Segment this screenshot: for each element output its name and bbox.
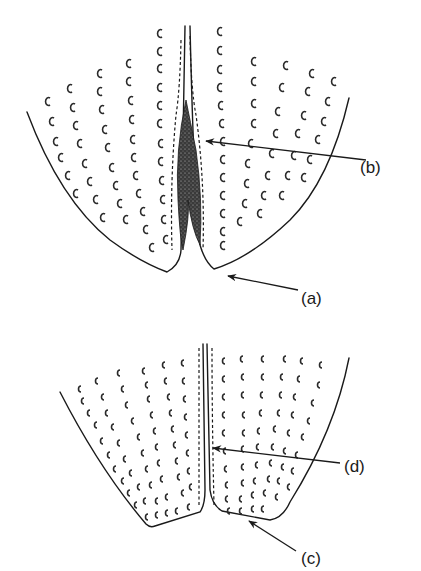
diagram-canvas: (b) (a)	[0, 0, 421, 571]
right-dashed-channel	[212, 348, 214, 505]
bottom-panel: (d) (c)	[60, 344, 365, 568]
right-lobe-outline	[190, 26, 349, 269]
label-d: (d)	[344, 457, 365, 476]
label-c: (c)	[301, 549, 321, 568]
stippled-core	[177, 100, 201, 250]
leader-a	[228, 276, 298, 290]
left-lobe-outline-bottom	[60, 344, 205, 527]
label-a: (a)	[301, 289, 322, 308]
label-b: (b)	[360, 158, 381, 177]
top-panel: (b) (a)	[27, 26, 381, 308]
cell-field-bottom-left	[79, 360, 193, 520]
cell-field-top-left	[46, 29, 168, 251]
leader-b	[206, 141, 366, 160]
leader-c	[249, 521, 296, 551]
leader-d	[213, 448, 340, 463]
cell-field-bottom-right	[223, 356, 323, 514]
cell-field-top-right	[218, 27, 336, 249]
